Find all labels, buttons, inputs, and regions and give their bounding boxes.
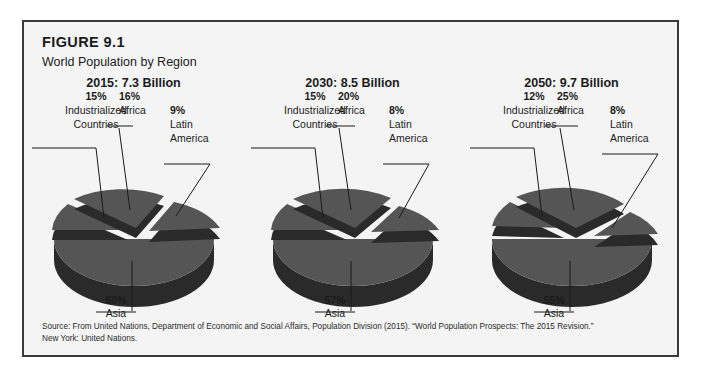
label-asia-name: Asia — [325, 307, 346, 319]
pie-slice-asia — [273, 239, 433, 307]
pie-svg-2015: 15% Industrialized Countries 16% Africa … — [24, 76, 243, 321]
source-line-1: Source: From United Nations, Department … — [42, 321, 663, 333]
pie-svg-2050: 12% Industrialized Countries 25% Africa … — [462, 76, 679, 321]
label-africa-name: Africa — [119, 104, 146, 116]
label-asia-pct: 57% — [324, 294, 346, 306]
label-industrialized-name-2: Countries — [293, 118, 338, 130]
label-africa-pct: 25% — [557, 90, 579, 102]
label-industrialized-name-2: Countries — [74, 118, 119, 130]
label-latin-name-1: Latin — [610, 118, 633, 130]
figure-subtitle: World Population by Region — [42, 55, 197, 69]
label-africa-name: Africa — [338, 104, 365, 116]
label-africa-pct: 20% — [338, 90, 360, 102]
pie-svg-2030: 15% Industrialized Countries 20% Africa … — [243, 76, 462, 321]
label-latin-name-2: America — [610, 132, 649, 144]
pie-slice-asia — [492, 239, 652, 307]
pie-slice-asia — [54, 239, 214, 307]
label-africa-pct: 16% — [119, 90, 141, 102]
figure-frame: FIGURE 9.1 World Population by Region 20… — [22, 20, 679, 357]
label-industrialized-name-1: Industrialized — [65, 104, 127, 116]
label-latin-pct: 8% — [610, 104, 626, 116]
figure-header: FIGURE 9.1 World Population by Region — [42, 34, 197, 69]
charts-row: 2015: 7.3 Billion — [24, 76, 679, 321]
figure-number: FIGURE 9.1 — [42, 34, 197, 51]
source-line-2: New York: United Nations. — [42, 333, 663, 345]
source-note: Source: From United Nations, Department … — [42, 321, 663, 345]
label-latin-name-1: Latin — [389, 118, 412, 130]
label-asia-name: Asia — [544, 307, 565, 319]
label-asia-pct: 60% — [105, 294, 127, 306]
label-industrialized-pct: 12% — [523, 90, 545, 102]
label-industrialized-name-1: Industrialized — [503, 104, 565, 116]
pie-chart-2050: 2050: 9.7 Billion — [462, 76, 679, 321]
label-latin-pct: 8% — [389, 104, 405, 116]
label-latin-pct: 9% — [170, 104, 186, 116]
label-industrialized-name-1: Industrialized — [284, 104, 346, 116]
label-industrialized-pct: 15% — [304, 90, 326, 102]
label-latin-name-2: America — [170, 132, 209, 144]
leader-latin-diag — [399, 164, 429, 218]
label-asia-pct: 55% — [543, 294, 565, 306]
label-industrialized-name-2: Countries — [512, 118, 557, 130]
label-africa-name: Africa — [557, 104, 584, 116]
pie-chart-2015: 2015: 7.3 Billion — [24, 76, 243, 321]
label-asia-name: Asia — [106, 307, 127, 319]
label-latin-name-1: Latin — [170, 118, 193, 130]
label-industrialized-pct: 15% — [85, 90, 107, 102]
pie-chart-2030: 2030: 8.5 Billion — [243, 76, 462, 321]
label-latin-name-2: America — [389, 132, 428, 144]
